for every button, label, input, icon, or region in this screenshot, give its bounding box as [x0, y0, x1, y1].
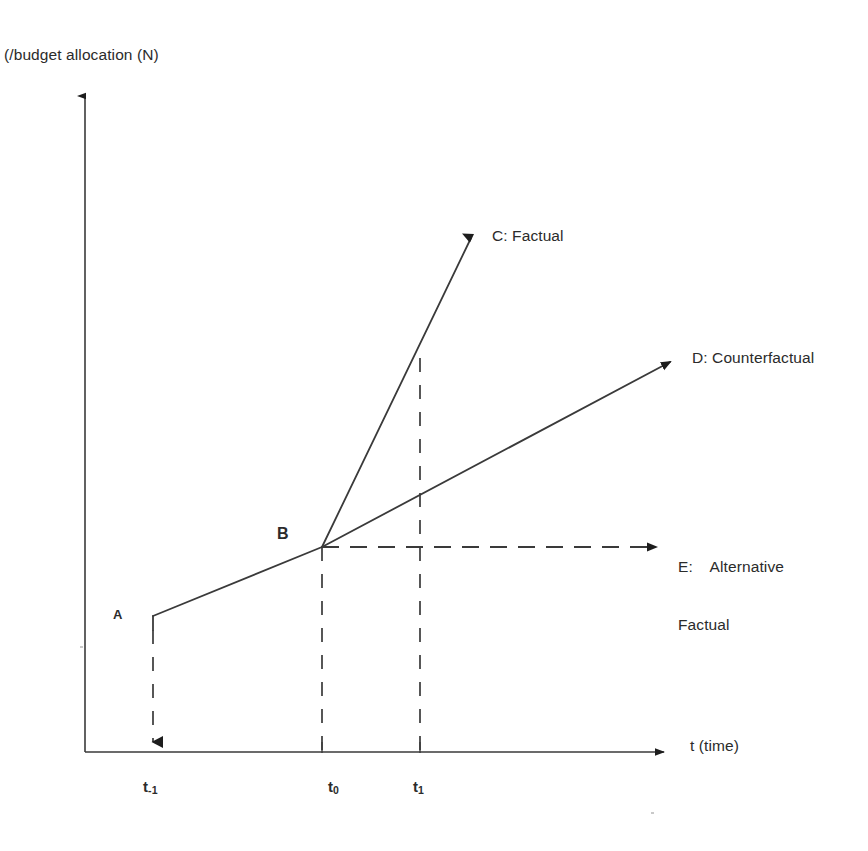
x-axis-label: t (time) — [690, 736, 739, 755]
x-tick-label-t-minus-1: t-1 — [143, 778, 158, 797]
series-label-c-factual: C: Factual — [492, 226, 564, 245]
x-tick-label-t1: t1 — [413, 778, 424, 797]
y-axis-label: (/budget allocation (N) — [4, 45, 159, 64]
series-label-d-counterfactual: D: Counterfactual — [692, 348, 814, 367]
series-label-e-line2: Factual — [678, 615, 784, 634]
scan-artifact-dot — [80, 646, 83, 648]
series-line-d-counterfactual — [322, 362, 670, 547]
scan-artifact-dot — [651, 812, 654, 814]
series-label-e-alternative-factual: E: Alternative Factual — [678, 518, 784, 673]
diagram-canvas-root: (/budget allocation (N) t (time) C: Fact… — [0, 0, 868, 851]
point-label-a: A — [113, 607, 123, 623]
series-label-e-line1: E: Alternative — [678, 557, 784, 576]
x-tick-label-t0-sub: 0 — [333, 784, 339, 796]
x-tick-label-t1-sub: 1 — [418, 784, 424, 796]
point-label-b: B — [277, 524, 289, 544]
x-tick-label-t0: t0 — [328, 778, 339, 797]
counterfactual-diagram — [0, 0, 868, 851]
pre-trend-segment-a-to-b — [153, 547, 322, 616]
series-line-c-factual — [322, 238, 471, 547]
x-tick-label-t-minus-1-sub: -1 — [148, 784, 158, 796]
